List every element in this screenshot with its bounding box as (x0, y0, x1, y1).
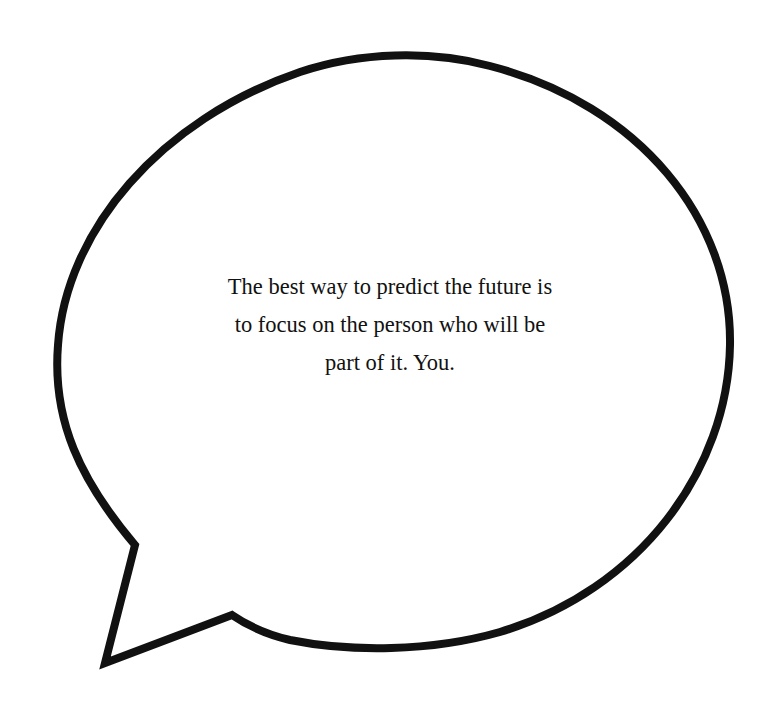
quote-line-1: The best way to predict the future is (150, 268, 630, 306)
quote-line-2: to focus on the person who will be (150, 306, 630, 344)
quote-line-3: part of it. You. (150, 344, 630, 382)
quote-text: The best way to predict the future is to… (150, 268, 630, 382)
